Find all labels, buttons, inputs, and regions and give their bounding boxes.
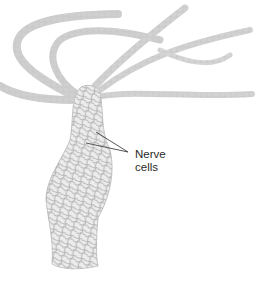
hydra-body [46,85,112,268]
label-line-2: cells [135,161,166,174]
nerve-cells-label: Nerve cells [135,148,166,174]
hydra-illustration [0,0,260,283]
label-line-1: Nerve [135,148,166,161]
hydra-figure: Nerve cells [0,0,260,283]
tentacles [0,8,252,100]
